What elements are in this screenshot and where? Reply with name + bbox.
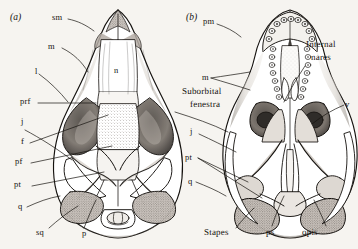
label-b-stapes: Stapes (204, 228, 229, 238)
skull-ventral (223, 10, 357, 238)
label-a-prf: prf (20, 97, 31, 107)
label-b-opis: opis (302, 228, 318, 238)
label-b-internal-nares-line1: Internal (306, 40, 336, 50)
label-a-sq: sq (36, 228, 44, 238)
label-a-m: m (48, 42, 55, 52)
label-b-internal-nares-line2: nares (311, 53, 331, 63)
skull-figure-artwork (0, 0, 358, 249)
figure-root: (a) (b) sm m l n prf j f pf pt q sq p pm… (0, 0, 358, 249)
label-b-v: v (345, 100, 349, 110)
label-b-j: j (190, 127, 193, 137)
label-a-f: f (21, 137, 24, 147)
panel-a-caption: (a) (10, 12, 21, 22)
label-a-q: q (18, 202, 22, 212)
label-b-suborbital-line1: Suborbital (182, 87, 222, 97)
label-a-j: j (21, 117, 24, 127)
label-a-sm: sm (52, 13, 62, 23)
label-b-suborbital-line2: fenestra (190, 100, 220, 110)
skull-dorsal (53, 10, 182, 238)
label-b-m: m (202, 73, 209, 83)
label-a-p: p (82, 229, 86, 239)
label-b-pt: pt (185, 153, 192, 163)
label-a-pt: pt (14, 180, 21, 190)
label-b-pm: pm (203, 17, 214, 27)
label-a-pf: pf (15, 157, 22, 167)
label-a-l: l (35, 67, 38, 77)
label-a-n: n (114, 66, 118, 76)
panel-b-caption: (b) (186, 12, 197, 22)
label-b-q: q (188, 177, 192, 187)
label-b-ps: ps (266, 228, 274, 238)
